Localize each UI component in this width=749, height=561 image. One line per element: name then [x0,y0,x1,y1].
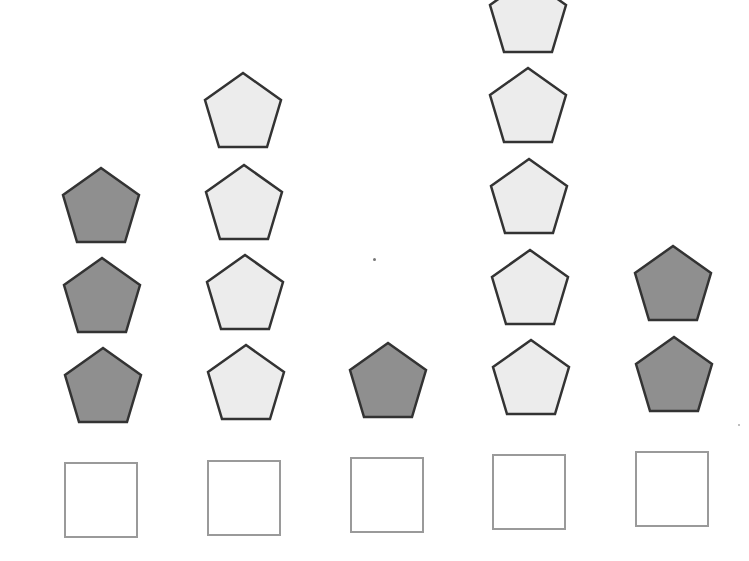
answer-box-2[interactable] [207,460,281,536]
pentagon-light [205,253,285,331]
pentagon-light [489,157,569,235]
answer-box-5[interactable] [635,451,709,527]
answer-box-4[interactable] [492,454,566,530]
pentagon-dark [63,346,143,424]
pentagon-light [206,343,286,421]
pentagon-light [488,66,568,144]
pentagon-dark [348,341,428,419]
pentagon-dark [62,256,142,334]
scan-speck [738,424,740,426]
pentagon-light [490,248,570,326]
pentagon-count-diagram [0,0,749,561]
pentagon-light [204,163,284,241]
pentagon-light [203,71,283,149]
pentagon-light [488,0,568,54]
pentagon-light [491,338,571,416]
answer-box-1[interactable] [64,462,138,538]
scan-speck [373,258,376,261]
answer-box-3[interactable] [350,457,424,533]
pentagon-dark [61,166,141,244]
pentagon-dark [634,335,714,413]
pentagon-dark [633,244,713,322]
